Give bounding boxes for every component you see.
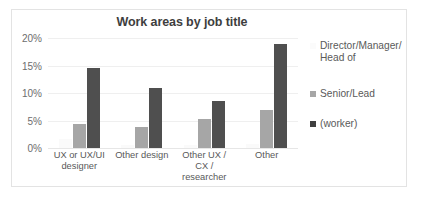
- y-axis-tick: 15%: [22, 60, 42, 71]
- chart-title: Work areas by job title: [52, 15, 312, 29]
- bar: [246, 144, 259, 148]
- legend-item[interactable]: Senior/Lead: [310, 88, 375, 100]
- legend-label: Senior/Lead: [320, 88, 375, 100]
- legend-label: Director/Manager/ Head of: [320, 40, 402, 63]
- bar: [73, 124, 86, 148]
- legend-item[interactable]: Director/Manager/ Head of: [310, 40, 402, 63]
- bar: [59, 139, 72, 148]
- y-axis-tick: 20%: [22, 33, 42, 44]
- bar: [184, 145, 197, 148]
- bar: [121, 145, 134, 148]
- y-axis-tick: 5%: [28, 115, 42, 126]
- bar-group: [173, 38, 236, 148]
- gridline: [48, 148, 298, 149]
- plot-area: [48, 38, 298, 148]
- x-axis-category-labels: UX or UX/UI designerOther designOther UX…: [48, 150, 298, 194]
- bar: [274, 44, 287, 148]
- y-axis-tick-labels: 0%5%10%15%20%: [12, 38, 45, 148]
- legend-label: (worker): [320, 118, 357, 130]
- chart-card: Work areas by job title 0%5%10%15%20% UX…: [11, 9, 407, 187]
- bar-group: [48, 38, 111, 148]
- legend-item[interactable]: (worker): [310, 118, 357, 130]
- bar: [260, 110, 273, 149]
- bar-group: [111, 38, 174, 148]
- bar-series-container: [48, 38, 298, 148]
- bar-group: [236, 38, 299, 148]
- bar: [135, 127, 148, 148]
- bar: [198, 119, 211, 148]
- legend-swatch-icon: [310, 121, 316, 127]
- legend-swatch-icon: [310, 43, 316, 49]
- x-axis-label: Other: [228, 150, 307, 161]
- y-axis-tick: 10%: [22, 88, 42, 99]
- bar: [87, 68, 100, 148]
- bar: [212, 101, 225, 148]
- bar: [149, 88, 162, 149]
- legend-swatch-icon: [310, 91, 316, 97]
